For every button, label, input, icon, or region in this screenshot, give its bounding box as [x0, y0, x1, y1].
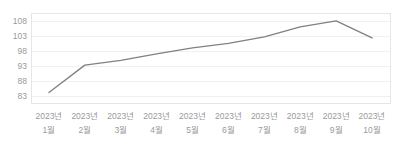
x-axis-tick-label-month: 9월	[330, 125, 343, 135]
x-axis-tick-label-month: 8월	[294, 125, 307, 135]
x-axis-tick-label-month: 3월	[114, 125, 127, 135]
x-axis-tick-label-year: 2023년	[35, 111, 62, 121]
x-axis-tick-label-year: 2023년	[359, 111, 386, 121]
x-axis-tick-label-year: 2023년	[143, 111, 170, 121]
x-axis-tick-label-month: 5월	[186, 125, 199, 135]
x-axis-tick-label-year: 2023년	[251, 111, 278, 121]
x-axis-tick-label-month: 6월	[222, 125, 235, 135]
x-axis-tick-label-year: 2023년	[323, 111, 350, 121]
x-axis-tick-label-year: 2023년	[179, 111, 206, 121]
x-axis-tick-label-year: 2023년	[215, 111, 242, 121]
x-axis-tick-label-year: 2023년	[71, 111, 98, 121]
gridlines	[31, 22, 390, 97]
y-axis-tick-label: 108	[13, 16, 27, 26]
y-axis-tick-label: 93	[18, 61, 28, 71]
y-axis-tick-labels: 83889398103108	[13, 16, 27, 101]
x-axis-tick-label-month: 10월	[363, 125, 380, 135]
plot-area-border	[31, 14, 390, 104]
y-axis-tick-label: 103	[13, 31, 27, 41]
x-axis-tick-label-year: 2023년	[107, 111, 134, 121]
y-axis-tick-label: 83	[18, 91, 28, 101]
x-axis-tick-labels: 2023년1월2023년2월2023년3월2023년4월2023년5월2023년…	[35, 111, 385, 135]
x-axis-tick-label-month: 1월	[43, 125, 56, 135]
x-axis-tick-label-month: 7월	[258, 125, 271, 135]
chart-canvas: 83889398103108 2023년1월2023년2월2023년3월2023…	[0, 0, 402, 146]
y-axis-tick-label: 88	[18, 76, 28, 86]
x-axis-tick-label-month: 4월	[150, 125, 163, 135]
y-axis-tick-label: 98	[18, 46, 28, 56]
x-axis-tick-label-year: 2023년	[287, 111, 314, 121]
x-axis-tick-label-month: 2월	[78, 125, 91, 135]
line-chart: 83889398103108 2023년1월2023년2월2023년3월2023…	[0, 0, 402, 146]
